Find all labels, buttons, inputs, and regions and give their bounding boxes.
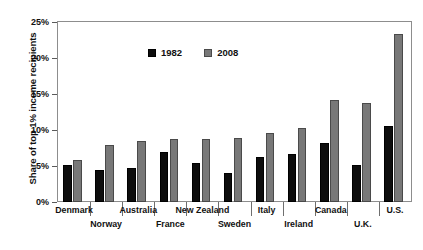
bar-u-s-1982 (384, 126, 393, 202)
x-axis-label-u-s: U.S. (386, 205, 403, 215)
y-tick-mark (52, 22, 57, 23)
y-tick-mark (52, 130, 57, 131)
legend-swatch-2008-icon (204, 49, 212, 57)
y-tick-label: 0% (15, 197, 49, 207)
y-tick-label: 10% (15, 125, 49, 135)
bar-france-2008 (170, 139, 179, 202)
bar-new-zealand-2008 (202, 139, 211, 202)
y-tick-mark (52, 166, 57, 167)
x-axis-label-u-k: U.K. (354, 219, 372, 229)
group-separator-tick (251, 202, 252, 216)
x-axis-label-norway: Norway (90, 219, 122, 229)
bar-norway-2008 (105, 145, 114, 202)
bar-ireland-1982 (288, 154, 297, 202)
legend-swatch-1982-icon (148, 49, 156, 57)
y-tick-mark (52, 58, 57, 59)
bar-canada-1982 (320, 143, 329, 202)
y-tick-label: 5% (15, 161, 49, 171)
bar-new-zealand-1982 (192, 163, 201, 202)
y-tick-label: 25% (15, 17, 49, 27)
x-axis-label-france: France (156, 219, 185, 229)
x-axis-label-denmark: Denmark (55, 205, 93, 215)
bar-denmark-2008 (73, 160, 82, 202)
bar-france-1982 (160, 152, 169, 202)
y-axis-title: Share of top 1% income recipients (27, 14, 38, 204)
bar-denmark-1982 (63, 165, 72, 202)
x-axis-label-australia: Australia (119, 205, 157, 215)
group-separator-tick (347, 202, 348, 216)
bar-sweden-2008 (234, 138, 243, 202)
y-tick-label: 20% (15, 53, 49, 63)
x-axis-label-canada: Canada (315, 205, 347, 215)
y-tick-mark (52, 94, 57, 95)
x-axis-label-italy: Italy (258, 205, 276, 215)
x-axis-label-new-zealand: New Zealand (176, 205, 230, 215)
bar-u-k-2008 (362, 103, 371, 202)
bar-australia-2008 (137, 141, 146, 202)
legend-label-2008: 2008 (217, 47, 238, 58)
bar-italy-2008 (266, 133, 275, 202)
bar-australia-1982 (127, 168, 136, 202)
bar-canada-2008 (330, 100, 339, 202)
bar-u-k-1982 (352, 165, 361, 202)
y-tick-mark (52, 202, 57, 203)
y-tick-label: 15% (15, 89, 49, 99)
group-separator-tick (379, 202, 380, 216)
legend-entry-1982: 1982 (148, 47, 182, 58)
bar-ireland-2008 (298, 128, 307, 202)
bar-norway-1982 (95, 170, 104, 202)
bar-sweden-1982 (224, 173, 233, 202)
bar-chart: Share of top 1% income recipients 0%5%10… (0, 0, 423, 250)
x-axis-label-sweden: Sweden (218, 219, 251, 229)
legend-entry-2008: 2008 (204, 47, 238, 58)
group-separator-tick (283, 202, 284, 216)
legend-label-1982: 1982 (161, 47, 182, 58)
x-axis-label-ireland: Ireland (284, 219, 313, 229)
bar-u-s-2008 (394, 34, 403, 202)
bar-italy-1982 (256, 157, 265, 202)
chart-legend: 1982 2008 (148, 47, 238, 58)
